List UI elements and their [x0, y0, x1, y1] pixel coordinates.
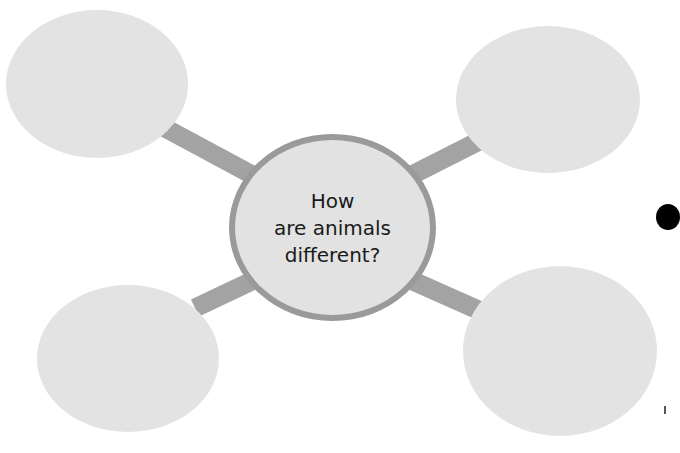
- bubble-bottom-left[interactable]: [37, 285, 219, 432]
- bubble-bottom-right[interactable]: [463, 266, 657, 436]
- bubble-top-left[interactable]: [6, 10, 188, 158]
- connector-bottom-left: [195, 280, 254, 308]
- bubble-top-right[interactable]: [456, 26, 640, 173]
- central-question-bubble: How are animals different?: [229, 134, 436, 321]
- connector-top-right: [408, 138, 485, 177]
- connector-top-left: [165, 128, 258, 178]
- central-question-text: How are animals different?: [274, 188, 391, 269]
- connector-bottom-right: [413, 281, 485, 313]
- central-question-line-3: different?: [274, 242, 391, 269]
- central-question-line-1: How: [274, 188, 391, 215]
- bullet-dot-icon: [656, 204, 680, 230]
- central-question-line-2: are animals: [274, 215, 391, 242]
- edge-text-fragment: [664, 406, 666, 414]
